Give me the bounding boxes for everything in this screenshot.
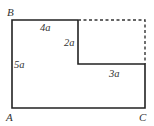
l-shape-diagram: B A C 4a 2a 5a 3a <box>0 0 154 126</box>
solid-outline <box>12 20 145 108</box>
dimension-label-left: 5a <box>14 59 25 70</box>
vertex-label-a: A <box>5 111 13 123</box>
dashed-outline <box>78 20 145 64</box>
dimension-label-top: 4a <box>40 22 51 33</box>
dimension-label-step-horizontal: 3a <box>108 68 120 79</box>
vertex-label-b: B <box>7 6 14 18</box>
dimension-label-step-vertical: 2a <box>64 37 75 48</box>
vertex-label-c: C <box>139 111 147 123</box>
